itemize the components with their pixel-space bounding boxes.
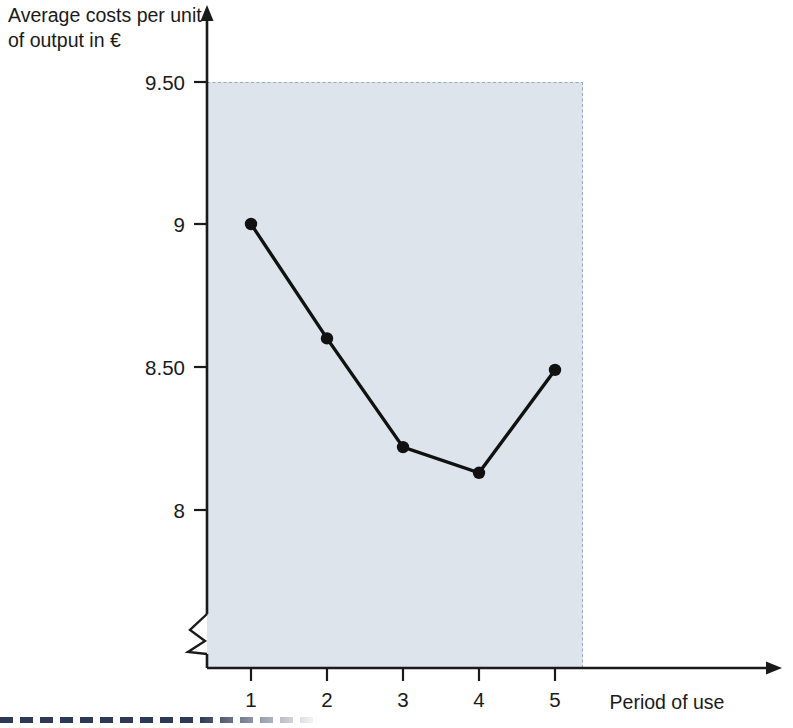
data-point-marker [245, 218, 257, 230]
y-tick-label: 8 [174, 499, 185, 522]
data-point-marker [321, 332, 333, 344]
x-tick-label: 4 [473, 688, 484, 711]
data-point-marker [397, 441, 409, 453]
y-tick-label: 9.50 [145, 71, 185, 94]
x-tick-label: 1 [245, 688, 256, 711]
y-axis-title-line-1: Average costs per unit [8, 4, 202, 26]
line-chart-svg: 9.50 9 8.50 8 1 2 3 4 5 Average costs pe… [0, 0, 793, 728]
y-axis-title: Average costs per unit of output in € [8, 4, 202, 51]
chart-figure: 9.50 9 8.50 8 1 2 3 4 5 Average costs pe… [0, 0, 793, 728]
x-axis-title: Period of use [610, 691, 725, 713]
data-point-marker [549, 364, 561, 376]
plot-area-background [207, 82, 583, 668]
y-axis-title-line-2: of output in € [8, 29, 121, 51]
y-tick-label: 9 [174, 213, 185, 236]
x-tick-label: 3 [397, 688, 408, 711]
y-axis-break-icon [188, 614, 207, 654]
data-point-marker [473, 467, 485, 479]
y-axis-ticks [194, 82, 207, 510]
y-tick-label: 8.50 [145, 356, 185, 379]
bottom-dashed-rule [0, 717, 320, 723]
x-axis-tick-labels: 1 2 3 4 5 [245, 688, 560, 711]
x-axis-arrowhead [766, 662, 782, 675]
y-axis-tick-labels: 9.50 9 8.50 8 [145, 71, 185, 522]
x-axis-ticks [251, 668, 555, 681]
y-axis-arrowhead [201, 5, 214, 21]
x-tick-label: 2 [321, 688, 332, 711]
x-tick-label: 5 [549, 688, 560, 711]
